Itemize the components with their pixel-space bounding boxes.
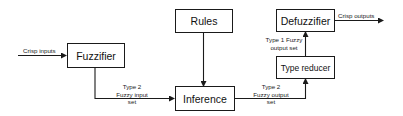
rules-label: Rules <box>191 15 218 27</box>
crisp-inputs-label: Crisp inputs <box>23 47 56 55</box>
inference-label: Inference <box>183 93 227 105</box>
type-reducer-label: Type reducer <box>281 63 331 73</box>
defuzzifier-box: Defuzzifier <box>276 9 335 32</box>
fuzzy-input-set-label: Type 2 Fuzzy input set <box>112 83 152 106</box>
fuzzifier-label: Fuzzifier <box>76 50 116 62</box>
inference-box: Inference <box>175 86 235 111</box>
fuzzy-output-set-label: Type 2 Fuzzy output set <box>251 83 291 106</box>
type-reducer-box: Type reducer <box>276 56 335 79</box>
fuzzifier-box: Fuzzifier <box>67 43 125 68</box>
type1-fuzzy-output-set-label: Type 1 Fuzzy output set <box>264 36 304 51</box>
defuzzifier-label: Defuzzifier <box>281 15 331 27</box>
rules-box: Rules <box>175 9 233 33</box>
crisp-outputs-label: Crisp outputs <box>338 12 374 20</box>
